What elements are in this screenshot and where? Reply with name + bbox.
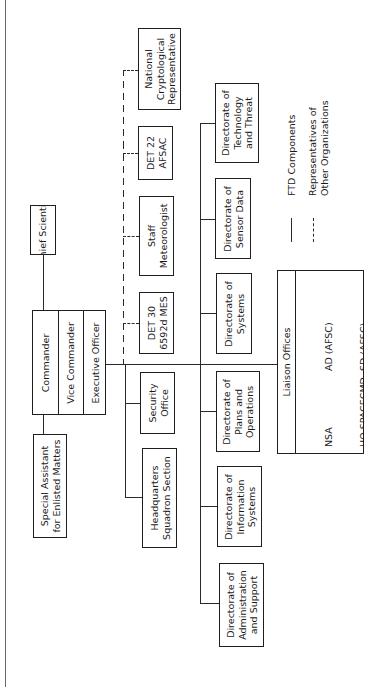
- connector-main-trunk: [106, 364, 277, 365]
- executive-officer-cell: Executive Officer: [83, 311, 106, 414]
- legend-dashed-label: Representatives of Other Organizations: [307, 100, 330, 196]
- special-assistant-box: Special Assistant for Enlisted Matters: [33, 434, 67, 538]
- det22-afsac-box: DET 22 AFSAC: [138, 126, 173, 180]
- chief-scientist-label: Chief Scientist: [37, 205, 49, 255]
- security-office-box: Security Office: [140, 372, 175, 434]
- liaison-offices-title: Liaison Offices: [281, 328, 293, 397]
- page-rule: [5, 0, 6, 687]
- executive-officer-label: Executive Officer: [90, 322, 102, 403]
- connector-commander-special-assistant: [43, 415, 44, 434]
- connector-systems: [200, 313, 216, 314]
- directorate-admin-support-label: Directorate of Administration and Suppor…: [224, 570, 259, 640]
- connector-sensor-data: [200, 219, 215, 220]
- directorate-information-systems-label: Directorate of Information Systems: [222, 474, 257, 540]
- special-assistant-label: Special Assistant for Enlisted Matters: [39, 439, 62, 532]
- connector-representatives-spine: [123, 70, 124, 364]
- vice-commander-cell: Vice Commander: [58, 311, 83, 414]
- staff-meteorologist-box: Staff Meteorologist: [139, 196, 174, 276]
- connector-det22: [123, 153, 138, 154]
- directorate-plans-operations-box: Directorate of Plans and Operations: [216, 371, 260, 452]
- connector-chief-commander: [43, 255, 44, 310]
- connector-det30: [123, 323, 139, 324]
- liaison-offices-box: Liaison Offices NSA HQ SPACECMD HQ TAC H…: [277, 270, 364, 454]
- liaison-column-1: NSA HQ SPACECMD HQ TAC HQ ESC HQ TFWC: [300, 377, 364, 447]
- directorate-sensor-data-label: Directorate of Sensor Data: [222, 186, 245, 252]
- commander-label: Commander: [40, 333, 52, 392]
- liaison-item: AD (AFSC): [323, 297, 335, 371]
- connector-hq-squadron: [125, 497, 142, 498]
- liaison-column-2: AD (AFSC) SD (AFSC) BMO (AFSC) HQ USAF/I…: [300, 297, 364, 371]
- command-section-box: Commander Vice Commander Executive Offic…: [32, 310, 106, 415]
- liaison-offices-list: NSA HQ SPACECMD HQ TAC HQ ESC HQ TFWC AD…: [296, 271, 363, 453]
- hq-squadron-section-box: Headquarters Squadron Section: [142, 448, 177, 548]
- directorate-technology-threat-label: Directorate of Technology and Threat: [220, 90, 255, 156]
- org-chart: Chief Scientist Commander Vice Commander…: [0, 0, 382, 687]
- staff-meteorologist-label: Staff Meteorologist: [145, 204, 168, 269]
- directorate-systems-box: Directorate of Systems: [216, 273, 252, 354]
- det30-mes-box: DET 30 6592d MES: [139, 292, 174, 354]
- liaison-item: SD (AFSC): [358, 297, 365, 371]
- chief-scientist-box: Chief Scientist: [30, 205, 56, 255]
- connector-directorates-spine: [200, 123, 201, 604]
- det22-afsac-label: DET 22 AFSAC: [144, 136, 167, 170]
- connector-tech-threat: [200, 123, 215, 124]
- directorate-admin-support-box: Directorate of Administration and Suppor…: [219, 563, 264, 647]
- national-cryptological-rep-label: National Cryptological Representative: [142, 33, 177, 105]
- liaison-item: HQ SPACECMD: [358, 377, 365, 447]
- vice-commander-label: Vice Commander: [65, 322, 77, 404]
- connector-nat-crypto: [123, 70, 138, 71]
- legend-solid-line-icon: [291, 218, 292, 242]
- connector-admin-support: [200, 603, 219, 604]
- directorate-information-systems-box: Directorate of Information Systems: [217, 466, 262, 547]
- connector-info-systems: [200, 506, 217, 507]
- security-office-label: Security Office: [146, 383, 169, 422]
- hq-squadron-section-label: Headquarters Squadron Section: [148, 456, 171, 540]
- directorate-sensor-data-box: Directorate of Sensor Data: [215, 178, 251, 259]
- legend-dashed-line-icon: [313, 218, 314, 242]
- directorate-plans-operations-label: Directorate of Plans and Operations: [221, 379, 256, 445]
- legend-solid-label: FTD Components: [286, 114, 298, 196]
- directorate-systems-label: Directorate of Systems: [223, 281, 246, 347]
- liaison-item: NSA: [323, 377, 335, 447]
- directorate-technology-threat-box: Directorate of Technology and Threat: [215, 83, 259, 163]
- connector-staff-spine: [125, 364, 126, 498]
- det30-mes-label: DET 30 6592d MES: [145, 296, 168, 349]
- connector-security: [125, 403, 140, 404]
- connector-staff-met: [123, 236, 139, 237]
- connector-plans-ops: [200, 411, 216, 412]
- commander-cell: Commander: [33, 311, 58, 414]
- national-cryptological-rep-box: National Cryptological Representative: [138, 28, 181, 110]
- liaison-offices-header: Liaison Offices: [278, 271, 296, 453]
